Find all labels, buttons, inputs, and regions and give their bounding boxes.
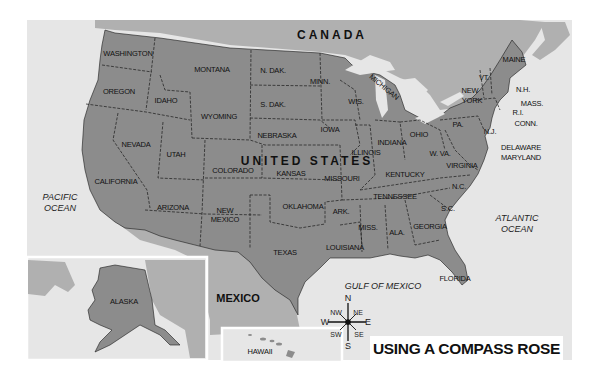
state-label: NEBRASKA (257, 131, 296, 140)
state-label: ALA. (389, 228, 404, 237)
state-label: NEW (217, 206, 234, 215)
state-label: TEXAS (273, 248, 297, 257)
state-label: FLORIDA (439, 274, 470, 283)
compass-sw-label: SW (330, 331, 341, 338)
state-label: CALIFORNIA (94, 177, 137, 186)
compass-n-label: N (345, 293, 352, 303)
compass-ne-label: NE (353, 309, 363, 316)
state-label: MONTANA (194, 65, 230, 74)
state-label: HAWAII (248, 347, 273, 356)
state-label: DELAWARE (501, 143, 541, 152)
state-label: S.C. (441, 204, 455, 213)
state-label: KENTUCKY (385, 170, 424, 179)
state-label: MISSOURI (324, 174, 360, 183)
state-label: OREGON (103, 87, 135, 96)
state-label: MEXICO (211, 215, 239, 224)
compass-s-label: S (345, 341, 351, 351)
state-label: NEW (462, 86, 479, 95)
water-label: PACIFICOCEAN (43, 192, 78, 214)
water-label: GULF OF MEXICO (345, 281, 422, 292)
state-label: WIS. (348, 97, 363, 106)
state-label: OKLAHOMA (283, 202, 324, 211)
hawaii-inset (222, 328, 342, 362)
state-label: N.J. (484, 127, 497, 136)
map-title-box: USING A COMPASS ROSE (370, 336, 563, 362)
state-label: LOUISIANA (326, 243, 364, 252)
state-label: GEORGIA (413, 222, 447, 231)
state-label: TENNESSEE (373, 192, 417, 201)
country-label: UNITED STATES (241, 154, 374, 168)
state-label: IDAHO (155, 96, 178, 105)
state-label: ALASKA (110, 297, 138, 306)
state-label: N. DAK. (260, 66, 286, 75)
state-label: VT. (479, 73, 489, 82)
state-label: ARK. (333, 207, 350, 216)
map-title: USING A COMPASS ROSE (373, 340, 560, 358)
compass-se-label: SE (354, 331, 363, 338)
state-label: MAINE (503, 55, 526, 64)
state-label: W. VA. (429, 149, 450, 158)
compass-nw-label: NW (330, 309, 342, 316)
compass-w-label: W (321, 317, 330, 327)
country-label: MEXICO (216, 292, 259, 304)
state-label: WYOMING (201, 112, 237, 121)
state-label: MARYLAND (501, 153, 541, 162)
state-label: KANSAS (276, 169, 305, 178)
country-label: CANADA (297, 28, 367, 42)
state-label: IOWA (321, 125, 340, 134)
state-label: VIRGINIA (446, 161, 477, 170)
state-label: R.I. (513, 108, 524, 117)
state-label: YORK (462, 96, 482, 105)
state-label: MISS. (358, 223, 377, 232)
state-label: N.H. (516, 85, 530, 94)
state-label: MASS. (521, 99, 543, 108)
state-label: OHIO (410, 130, 428, 139)
state-label: NEVADA (121, 140, 150, 149)
state-label: S. DAK. (260, 100, 285, 109)
state-label: N.C. (452, 182, 466, 191)
compass-e-label: E (365, 317, 371, 327)
state-label: WASHINGTON (103, 49, 152, 58)
state-label: MINN. (310, 77, 330, 86)
state-label: INDIANA (377, 138, 406, 147)
state-label: UTAH (166, 150, 185, 159)
state-label: PA. (453, 120, 464, 129)
state-label: ARIZONA (157, 203, 189, 212)
water-label: ATLANTICOCEAN (496, 213, 539, 235)
state-label: CONN. (514, 119, 537, 128)
